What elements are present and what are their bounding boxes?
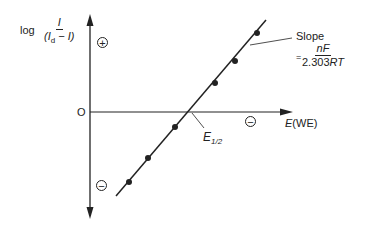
half-wave-e: E	[203, 130, 211, 144]
negative-region-marker: −	[96, 180, 107, 191]
y-axis-down-arrow-icon	[87, 207, 94, 219]
half-wave-sub: 1/2	[211, 137, 222, 146]
x-axis-arrow-icon	[280, 109, 293, 116]
y-axis-up-arrow-icon	[87, 14, 94, 26]
data-point	[172, 124, 178, 130]
slope-fraction: nF 2.303RT	[302, 43, 344, 68]
slope-numerator: nF	[315, 43, 332, 56]
x-axis-label: E(WE)	[285, 118, 317, 129]
data-point	[212, 80, 218, 86]
slope-equals: =	[296, 53, 301, 62]
positive-region-marker: +	[97, 37, 108, 48]
denominator-rest: − I)	[55, 30, 74, 42]
denominator-open: (I	[44, 30, 51, 42]
y-axis-label-log: log	[20, 25, 35, 36]
data-point	[145, 155, 151, 161]
data-point	[126, 179, 132, 185]
slope-label: Slope	[296, 31, 324, 42]
half-wave-potential-label: E1/2	[203, 131, 222, 146]
data-line	[116, 20, 266, 196]
y-axis-label-fraction: I (Id − I)	[44, 17, 74, 45]
half-wave-leader	[192, 113, 204, 128]
origin-zero-label: O	[77, 107, 86, 118]
slope-leader	[250, 38, 292, 45]
slope-denominator-number: 2.303	[302, 56, 330, 68]
slope-denominator-var: RT	[330, 56, 344, 68]
y-axis-label-denominator: (Id − I)	[44, 30, 74, 45]
slope-denominator: 2.303RT	[302, 56, 344, 68]
data-point	[232, 58, 238, 64]
y-axis-label-numerator: I	[56, 17, 63, 30]
x-negative-marker: −	[245, 116, 256, 127]
data-point	[254, 30, 260, 36]
x-axis-label-rest: (WE)	[292, 117, 317, 129]
